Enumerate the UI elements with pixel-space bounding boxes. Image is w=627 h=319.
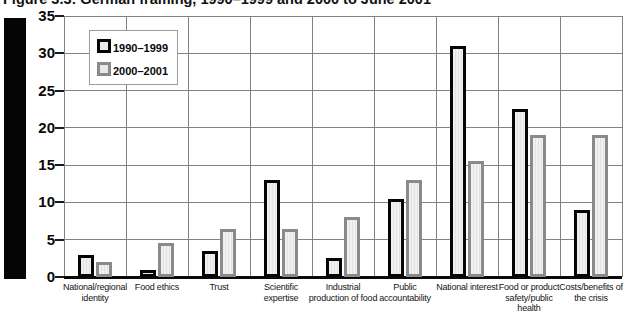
legend-swatch-2000-2001-icon [97,62,111,76]
gridline-vertical [188,16,189,277]
bar-1990-1999 [78,255,94,277]
x-axis-label: Trust [184,282,254,293]
bar-2000-2001 [406,180,422,277]
gridline-vertical [64,16,65,277]
bar-1990-1999 [326,258,342,277]
bar-1990-1999 [450,46,466,277]
legend-row-1990-1999: 1990–1999 [97,38,168,54]
y-axis-label: 5 [15,231,55,249]
bar-2000-2001 [344,217,360,277]
bar-1990-1999 [140,270,156,277]
bar-2000-2001 [220,229,236,277]
x-axis-label: National interest [432,282,502,293]
bar-1990-1999 [574,210,590,277]
gridline-vertical [436,16,437,277]
gridline-vertical [312,16,313,277]
y-axis-label: 15 [15,156,55,174]
gridline-vertical [622,16,623,277]
gridline-horizontal [64,127,622,128]
x-axis-label: National/regional identity [60,282,130,303]
bar-2000-2001 [468,161,484,277]
bar-2000-2001 [592,135,608,277]
legend-label-2000-2001: 2000–2001 [113,65,168,77]
y-axis-label: 25 [15,82,55,100]
bar-2000-2001 [158,243,174,277]
bar-2000-2001 [96,262,112,277]
bar-2000-2001 [530,135,546,277]
y-axis-label: 20 [15,119,55,137]
x-axis-label: Scientific expertise [246,282,316,303]
legend-label-1990-1999: 1990–1999 [113,42,168,54]
legend: 1990–1999 2000–2001 [89,30,178,85]
x-axis-label: Food ethics [122,282,192,293]
bar-1990-1999 [202,251,218,277]
gridline-vertical [498,16,499,277]
gridline-horizontal [64,90,622,91]
gridline-vertical [560,16,561,277]
x-axis-label: Public accountability [370,282,440,303]
y-axis-label: 30 [15,44,55,62]
bar-1990-1999 [388,199,404,277]
gridline-vertical [250,16,251,277]
legend-row-2000-2001: 2000–2001 [97,61,168,77]
bar-2000-2001 [282,229,298,277]
y-axis-label: 35 [15,7,55,25]
legend-swatch-1990-1999-icon [97,39,111,53]
bar-1990-1999 [264,180,280,277]
x-axis-label: Food or product safety/public health [494,282,564,314]
figure: Figure 3.3: German framing, 1990–1999 an… [0,0,627,319]
figure-title: Figure 3.3: German framing, 1990–1999 an… [3,0,431,7]
gridline-horizontal [64,16,622,17]
bar-1990-1999 [512,109,528,277]
x-axis-label: Industrial production of food [308,282,378,303]
gridline-vertical [374,16,375,277]
x-axis-label: Costs/benefits of the crisis [556,282,626,303]
y-axis-label: 10 [15,193,55,211]
y-axis-label: 0 [15,268,55,286]
